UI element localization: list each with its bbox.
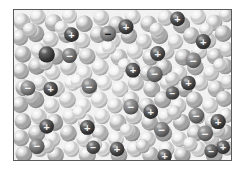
figure-root: ++−+−+−+−+−+−−−+−+++−−−−+++−+ — [0, 0, 245, 173]
particle-field-canvas: ++−+−+−+−+−+−−−+−+++−−−−+++−+ — [14, 10, 231, 160]
film-grain-overlay — [14, 10, 231, 160]
particle-field: ++−+−+−+−+−+−−−+−+++−−−−+++−+ — [14, 10, 231, 160]
simulation-frame: ++−+−+−+−+−+−−−+−+++−−−−+++−+ — [13, 9, 232, 161]
